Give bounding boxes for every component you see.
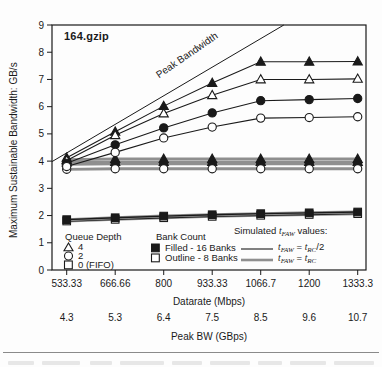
x-tick-label: 933.33: [197, 278, 228, 289]
x2-tick-label: 5.3: [108, 312, 122, 323]
y-tick-label: 0: [38, 265, 44, 276]
y-tick-label: 8: [38, 47, 44, 58]
tfaw-row-label: tFAW = tRC: [278, 253, 316, 267]
qd2-16banks-tRChalf-marker: [305, 95, 313, 103]
qd2-16banks-tRChalf-marker: [208, 109, 216, 117]
tfaw-sub: RC: [307, 257, 316, 265]
y-tick-label: 4: [38, 156, 44, 167]
x-tick-label: 533.33: [51, 278, 82, 289]
qd2-16banks-tRChalf-marker: [257, 97, 265, 105]
figure-canvas: 0123456789533.334.3666.665.38006.4933.33…: [0, 0, 382, 367]
tfaw-post: /2: [316, 241, 324, 252]
tfaw-eq: =: [294, 241, 305, 252]
qd2-16banks-tRChalf-marker: [160, 124, 168, 132]
y-axis-label: Maximum Sustainable Bandwidth: GB/s: [8, 62, 19, 238]
qd0-16banks-marker: [354, 208, 362, 216]
qd2-8banks-tRChalf-marker: [208, 123, 216, 131]
x-tick-label: 1333.3: [342, 278, 373, 289]
x2-tick-label: 6.4: [157, 312, 171, 323]
qd0-16banks-marker: [257, 210, 265, 218]
qd4-16banks-tRChalf-marker: [256, 57, 265, 65]
qd2-8banks-tRChalf-marker: [63, 162, 71, 170]
open-square-icon: [63, 260, 74, 270]
legend-tfaw-row-full: tFAW = tRC: [240, 253, 316, 267]
open-square-icon: [150, 253, 161, 263]
legend-label: Outline - 8 Banks: [165, 253, 238, 263]
x-axis-label: Datarate (Mbps): [52, 296, 366, 307]
x2-tick-label: 4.3: [60, 312, 74, 323]
y-tick-label: 5: [38, 128, 44, 139]
qd0-16banks-marker: [305, 209, 313, 217]
qd2-16banks-tRChalf-marker: [354, 94, 362, 102]
thin-black-line-sample: [240, 246, 274, 252]
x2-tick-label: 7.5: [205, 312, 219, 323]
x2-tick-label: 8.5: [254, 312, 268, 323]
legend-bank-count-header: Bank Count: [156, 231, 206, 242]
qd2-8banks-tRChalf-marker: [160, 134, 168, 142]
qd2-8banks-tRChalf-marker: [257, 114, 265, 122]
x-tick-label: 800: [155, 278, 172, 289]
tfaw-header-sub: FAW: [282, 230, 295, 238]
qd2-8banks-tRC-marker: [208, 165, 216, 173]
tfaw-header-post: values:: [295, 225, 328, 236]
x2-tick-label: 10.7: [348, 312, 368, 323]
qd2-8banks-tRC-marker: [111, 165, 119, 173]
y-tick-label: 6: [38, 101, 44, 112]
qd2-16banks-tRChalf-marker: [111, 141, 119, 149]
qd4-16banks-tRChalf-marker: [305, 57, 314, 65]
legend-bank-count-item-outline: Outline - 8 Banks: [150, 253, 238, 263]
tfaw-header-pre: Simulated: [234, 225, 279, 236]
qd4-16banks-tRChalf-marker: [353, 57, 362, 65]
filled-square-icon: [150, 243, 161, 253]
qd4-8banks-tRChalf-marker: [305, 75, 314, 83]
qd4-8banks-tRChalf-marker: [256, 75, 265, 83]
qd2-8banks-tRC-marker: [160, 165, 168, 173]
legend-queue-depth-header: Queue Depth: [65, 231, 122, 242]
qd4-16banks-tRChalf-marker: [208, 78, 217, 86]
legend-queue-depth-item-0-fifo: 0 (FIFO): [63, 260, 114, 270]
y-tick-label: 2: [38, 210, 44, 221]
qd4-8banks-tRChalf-marker: [353, 74, 362, 82]
y-tick-label: 9: [38, 20, 44, 31]
page-separator-rule: [3, 352, 379, 353]
qd2-8banks-tRChalf-marker: [305, 113, 313, 121]
x-tick-label: 1066.7: [245, 278, 276, 289]
legend-label: 0 (FIFO): [78, 260, 114, 270]
tfaw-eq: =: [294, 252, 305, 263]
qd2-8banks-tRC-marker: [354, 165, 362, 173]
x-tick-label: 1200: [298, 278, 321, 289]
qd2-8banks-tRC-marker: [305, 165, 313, 173]
qd0-16banks-marker: [208, 211, 216, 219]
tfaw-sub: FAW: [281, 257, 294, 265]
qd0-16banks-marker: [111, 214, 119, 222]
x2-tick-label: 9.6: [302, 312, 316, 323]
thick-gray-line-sample: [240, 257, 274, 263]
qd2-8banks-tRChalf-marker: [111, 148, 119, 156]
x-tick-label: 666.66: [100, 278, 131, 289]
qd2-8banks-tRC-marker: [257, 165, 265, 173]
chart-title: 164.gzip: [64, 30, 109, 42]
peak-bandwidth-line: [52, 25, 284, 162]
qd0-16banks-marker: [63, 216, 71, 224]
y-tick-label: 7: [38, 74, 44, 85]
qd0-16banks-marker: [160, 212, 168, 220]
y-tick-label: 1: [38, 237, 44, 248]
y-tick-label: 3: [38, 183, 44, 194]
qd2-8banks-tRChalf-marker: [354, 113, 362, 121]
legend-tfaw-header: Simulated tFAW values:: [234, 225, 328, 238]
x2-axis-label: Peak BW (GBps): [52, 331, 366, 342]
